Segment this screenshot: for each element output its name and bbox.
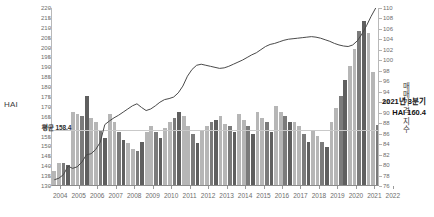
y-tick-label-right: 80	[383, 162, 409, 168]
y-tick-label-right: 78	[383, 173, 409, 179]
x-tick-mark	[264, 186, 265, 189]
x-tick-mark	[208, 186, 209, 189]
y-tick-label-right: 84	[383, 141, 409, 147]
y-tick-mark-right	[379, 176, 382, 177]
x-tick-mark	[134, 186, 135, 189]
x-tick-mark	[337, 186, 338, 189]
chart-annotation: 2021년 3분기 HAI 160.4	[382, 96, 426, 118]
annotation-line-2: HAI 160.4	[382, 107, 426, 118]
average-line-label: 평균 158.4	[42, 122, 71, 132]
y-tick-mark-right	[379, 155, 382, 156]
x-tick-mark	[227, 186, 228, 189]
y-tick-mark-left	[48, 186, 51, 187]
y-tick-mark-right	[379, 71, 382, 72]
y-tick-mark-right	[379, 50, 382, 51]
x-tick-mark	[153, 186, 154, 189]
y-tick-label-right: 76	[383, 183, 409, 189]
y-tick-mark-right	[379, 29, 382, 30]
x-tick-mark	[116, 186, 117, 189]
y-tick-mark-right	[379, 81, 382, 82]
y-tick-label-right: 104	[383, 36, 409, 42]
price-index-line-series	[52, 8, 378, 185]
y-tick-label-right: 108	[383, 15, 409, 21]
y-tick-mark-right	[379, 123, 382, 124]
y-tick-label-right: 86	[383, 131, 409, 137]
y-axis-left-title: HAI	[4, 100, 18, 109]
y-tick-mark-right	[379, 60, 382, 61]
x-tick-mark	[356, 186, 357, 189]
y-tick-mark-right	[379, 134, 382, 135]
y-tick-mark-right	[379, 92, 382, 93]
x-tick-mark	[171, 186, 172, 189]
x-tick-mark	[60, 186, 61, 189]
y-tick-label-right: 94	[383, 89, 409, 95]
x-tick-mark	[374, 186, 375, 189]
x-tick-mark	[282, 186, 283, 189]
y-tick-label-right: 98	[383, 68, 409, 74]
y-tick-mark-right	[379, 186, 382, 187]
y-tick-label-right: 96	[383, 78, 409, 84]
plot-area	[51, 8, 379, 186]
x-tick-mark	[190, 186, 191, 189]
y-tick-label-right: 110	[383, 5, 409, 11]
y-tick-mark-right	[379, 144, 382, 145]
x-tick-mark	[79, 186, 80, 189]
y-tick-label-right: 102	[383, 47, 409, 53]
y-tick-mark-right	[379, 8, 382, 9]
annotation-line-1: 2021년 3분기	[382, 96, 426, 107]
y-tick-label-right: 106	[383, 26, 409, 32]
chart-container: HAI 매매가격 지수 2202152102052001951901851801…	[0, 0, 434, 217]
x-tick-mark	[300, 186, 301, 189]
y-tick-label-right: 88	[383, 120, 409, 126]
y-tick-mark-right	[379, 165, 382, 166]
x-tick-mark	[97, 186, 98, 189]
x-tick-mark	[245, 186, 246, 189]
x-tick-label: 2022	[378, 192, 408, 200]
x-tick-mark	[319, 186, 320, 189]
y-tick-mark-right	[379, 39, 382, 40]
y-tick-mark-right	[379, 18, 382, 19]
y-tick-label-right: 100	[383, 57, 409, 63]
y-tick-label-right: 82	[383, 152, 409, 158]
x-tick-mark	[393, 186, 394, 189]
